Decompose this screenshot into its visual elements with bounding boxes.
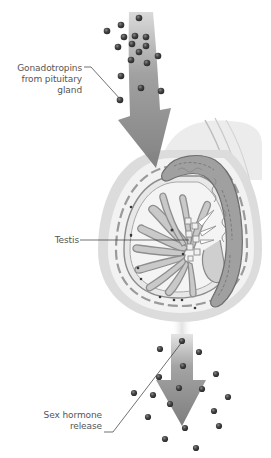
molecule [216,423,222,429]
molecule [150,392,156,398]
molecule [162,436,168,442]
molecule [138,85,145,92]
molecule [144,60,151,67]
molecule [136,15,143,22]
molecule [145,414,151,420]
molecule [193,445,199,451]
label-sex-hormone-release: Sex hormone release [10,410,102,432]
molecule [158,88,165,95]
molecule [136,49,143,56]
label-gonadotropins-line1: Gonadotropins [0,63,82,74]
molecule [128,57,135,64]
molecule [132,33,139,40]
molecule [180,363,186,369]
molecule [115,44,122,51]
molecule [131,390,137,396]
molecule [129,41,136,48]
molecule [182,425,188,431]
sex-hormone-arrow [156,334,206,426]
molecule [196,349,202,355]
molecule [213,371,219,377]
molecule [118,73,125,80]
label-gonadotropins-line2: from pituitary gland [0,74,82,96]
molecule [199,386,205,392]
molecule [225,394,231,400]
label-gonadotropins: Gonadotropins from pituitary gland [0,63,82,96]
diagram-canvas: Gonadotropins from pituitary gland Testi… [0,0,271,458]
molecule [179,338,185,344]
label-sex-hormone-line2: release [10,421,102,432]
label-sex-hormone-line1: Sex hormone [10,410,102,421]
molecule [155,53,162,60]
molecule [118,22,125,29]
label-testis: Testis [40,235,79,246]
molecule [117,97,124,104]
molecule [143,34,150,41]
molecule [143,43,150,50]
molecule [211,408,217,414]
molecule [156,374,162,380]
molecule [104,28,111,35]
molecule [157,346,163,352]
molecule [121,34,128,41]
molecule [167,401,173,407]
molecule [176,385,182,391]
